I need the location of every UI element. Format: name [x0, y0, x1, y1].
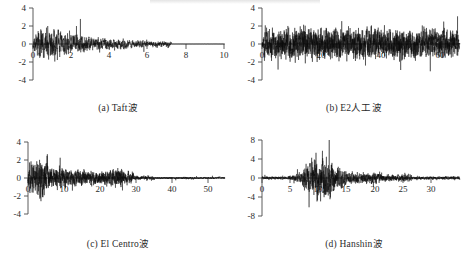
svg-text:6: 6 — [145, 50, 150, 60]
svg-text:-2: -2 — [248, 57, 256, 67]
svg-text:10: 10 — [220, 50, 230, 60]
waveform-hanshin — [262, 140, 460, 207]
svg-text:-4: -4 — [248, 75, 256, 85]
caption-el-centro: (c) El Centro波 — [0, 236, 236, 250]
svg-text:20: 20 — [371, 184, 381, 194]
panel-el-centro: 4 2 0 -2 -4 0 10 20 30 40 50 (c) El Cent… — [0, 130, 236, 261]
svg-text:0: 0 — [17, 173, 22, 183]
svg-text:-2: -2 — [14, 191, 22, 201]
svg-text:20: 20 — [96, 184, 106, 194]
svg-text:30: 30 — [427, 184, 437, 194]
panel-taft: 4 2 0 -2 -4 0 2 4 6 8 10 (a) Taft波 — [0, 0, 236, 130]
ytick-labels-el-centro: 4 2 0 -2 -4 — [14, 137, 22, 219]
waveform-taft — [33, 19, 224, 62]
svg-text:30: 30 — [132, 184, 142, 194]
panel-e2-artificial: 4 2 0 -2 -4 0 20 40 60 (b) E2人工波 — [236, 0, 472, 130]
svg-text:15: 15 — [342, 184, 352, 194]
xtick-labels-el-centro: 0 10 20 30 40 50 — [26, 184, 213, 194]
svg-text:0: 0 — [251, 39, 256, 49]
svg-text:4: 4 — [251, 3, 256, 13]
panel-hanshin: 8 4 0 -4 -8 0 5 10 15 20 25 30 (d) Hansh… — [236, 130, 472, 261]
plot-hanshin: 8 4 0 -4 -8 0 5 10 15 20 25 30 — [236, 132, 472, 237]
ytick-labels-taft: 4 2 0 -2 -4 — [19, 3, 27, 85]
svg-text:50: 50 — [204, 184, 214, 194]
svg-text:2: 2 — [22, 21, 27, 31]
xtick-labels-taft: 0 2 4 6 8 10 — [31, 50, 229, 60]
plot-taft: 4 2 0 -2 -4 0 2 4 6 8 10 — [0, 0, 236, 100]
xtick-labels-hanshin: 0 5 10 15 20 25 30 — [260, 184, 436, 194]
svg-text:-4: -4 — [19, 75, 27, 85]
plot-e2-artificial: 4 2 0 -2 -4 0 20 40 60 — [236, 0, 472, 100]
svg-text:2: 2 — [17, 155, 22, 165]
svg-text:4: 4 — [251, 154, 256, 164]
svg-text:5: 5 — [288, 184, 293, 194]
ytick-labels-e2-artificial: 4 2 0 -2 -4 — [248, 3, 256, 85]
caption-e2-artificial: (b) E2人工波 — [236, 100, 472, 114]
seismic-wave-figure: 4 2 0 -2 -4 0 2 4 6 8 10 (a) Taft波 — [0, 0, 472, 261]
svg-text:-4: -4 — [248, 192, 256, 202]
svg-text:10: 10 — [60, 184, 70, 194]
caption-hanshin: (d) Hanshin波 — [236, 236, 472, 250]
svg-text:25: 25 — [399, 184, 409, 194]
svg-text:40: 40 — [168, 184, 178, 194]
svg-text:2: 2 — [69, 50, 74, 60]
svg-text:60: 60 — [436, 50, 446, 60]
svg-text:-2: -2 — [19, 57, 27, 67]
svg-text:2: 2 — [251, 21, 256, 31]
svg-text:-8: -8 — [248, 211, 256, 221]
svg-text:0: 0 — [22, 39, 27, 49]
svg-text:-4: -4 — [14, 209, 22, 219]
svg-text:8: 8 — [251, 135, 256, 145]
svg-text:8: 8 — [184, 50, 189, 60]
svg-text:4: 4 — [22, 3, 27, 13]
svg-text:4: 4 — [17, 137, 22, 147]
svg-text:0: 0 — [260, 184, 265, 194]
svg-text:0: 0 — [251, 173, 256, 183]
svg-text:0: 0 — [31, 50, 36, 60]
caption-taft: (a) Taft波 — [0, 100, 236, 114]
ytick-labels-hanshin: 8 4 0 -4 -8 — [248, 135, 256, 221]
svg-text:4: 4 — [107, 50, 112, 60]
plot-el-centro: 4 2 0 -2 -4 0 10 20 30 40 50 — [0, 132, 236, 237]
